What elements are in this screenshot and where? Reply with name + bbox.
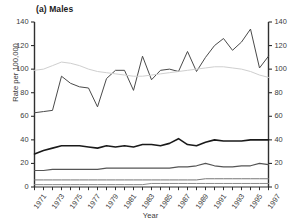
y-tick-label-right: 60: [275, 111, 297, 120]
y-tick-label-left: 80: [7, 88, 29, 97]
y-tick-label-right: 100: [275, 64, 297, 73]
y-tick-label-right: 20: [275, 158, 297, 167]
y-tick-label-left: 60: [7, 111, 29, 120]
data-line-series-2: [35, 62, 269, 77]
data-line-series-5: [35, 179, 269, 180]
y-tick-label-left: 20: [7, 158, 29, 167]
data-line-series-4: [35, 163, 269, 170]
y-tick-label-right: 40: [275, 135, 297, 144]
data-line-series-6: [35, 183, 269, 184]
data-line-series-3: [35, 139, 269, 154]
y-tick-label-right: 140: [275, 17, 297, 26]
y-tick-label-right: 80: [275, 88, 297, 97]
y-tick-label-left: 100: [7, 64, 29, 73]
plot-area: [0, 0, 301, 223]
y-tick-label-left: 120: [7, 41, 29, 50]
y-tick-label-left: 40: [7, 135, 29, 144]
y-tick-label-right: 0: [275, 182, 297, 191]
y-tick-label-left: 0: [7, 182, 29, 191]
figure-panel: (a) Males Rate per 100,000 Year 00202040…: [0, 0, 301, 223]
y-tick-label-right: 120: [275, 41, 297, 50]
y-tick-label-left: 140: [7, 17, 29, 26]
data-line-series-1: [35, 29, 269, 113]
